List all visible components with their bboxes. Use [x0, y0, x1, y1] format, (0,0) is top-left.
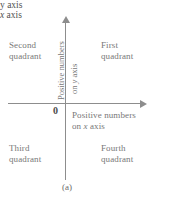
x-axis-line [8, 103, 141, 104]
x-axis-arrowhead-icon [140, 100, 147, 108]
y-axis-on-axis-suffix: axis [69, 64, 79, 80]
third-quadrant-label: Third quadrant [9, 143, 57, 164]
x-axis-positive-numbers-label: Positive numberson x axis [72, 110, 152, 131]
x-axis-label: x axis [0, 10, 172, 20]
x-positive-line2-suffix: axis [88, 121, 105, 131]
first-quadrant-label: First quadrant [101, 40, 151, 61]
x-axis-label-suffix: axis [4, 10, 22, 20]
x-positive-line2-prefix: on [72, 121, 84, 131]
fourth-quadrant-label: Fourth quadrant [101, 143, 151, 164]
y-axis-on-axis-prefix: on [69, 83, 79, 94]
x-positive-line1: Positive numbers [72, 110, 136, 120]
origin-label: 0 [53, 105, 58, 116]
y-axis-arrowhead-icon [62, 16, 70, 23]
cartesian-plane-figure: y axis x axis Second quadrant First quad… [0, 0, 172, 203]
second-quadrant-label: Second quadrant [9, 40, 57, 61]
y-axis-positive-numbers-label: Positive numbers [57, 41, 66, 100]
figure-caption: (a) [62, 182, 72, 192]
y-axis-on-axis-variable: y [69, 80, 79, 84]
y-axis-on-axis-label: on y axis [70, 64, 79, 94]
y-axis-label: y axis [0, 0, 172, 10]
